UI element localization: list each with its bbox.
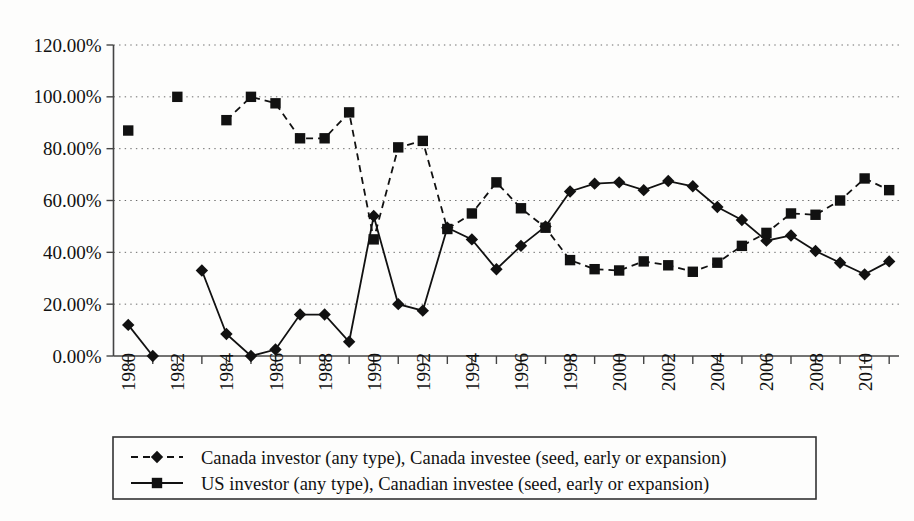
data-point-square: [344, 107, 354, 117]
y-tick-label: 80.00%: [43, 138, 102, 159]
data-point-square: [589, 264, 599, 274]
data-point-square: [761, 228, 771, 238]
data-point-diamond: [564, 185, 576, 197]
data-point-diamond: [417, 304, 429, 316]
x-tick-label: 2008: [806, 353, 827, 391]
legend-item-2[interactable]: US investor (any type), Canadian investe…: [131, 474, 709, 495]
x-tick-label: 2000: [609, 353, 630, 391]
data-point-diamond: [834, 257, 846, 269]
data-point-square: [540, 223, 550, 233]
legend-marker-diamond: [151, 451, 163, 463]
data-point-square: [688, 267, 698, 277]
x-tick-label: 1990: [364, 353, 385, 391]
y-tick-label: 0.00%: [52, 346, 101, 367]
data-point-square: [172, 92, 182, 102]
data-point-square: [221, 115, 231, 125]
y-tick-label: 60.00%: [43, 190, 102, 211]
x-tick-label: 2002: [658, 353, 679, 391]
data-point-diamond: [638, 184, 650, 196]
y-axis-ticks: 0.00%20.00%40.00%60.00%80.00%100.00%120.…: [33, 35, 113, 367]
data-series: [122, 92, 895, 363]
chart-container: 0.00%20.00%40.00%60.00%80.00%100.00%120.…: [0, 0, 914, 521]
data-point-square: [663, 260, 673, 270]
data-point-square: [467, 208, 477, 218]
legend-label: US investor (any type), Canadian investe…: [201, 474, 709, 495]
data-point-square: [246, 92, 256, 102]
x-tick-label: 1980: [118, 353, 139, 391]
data-point-square: [123, 125, 133, 135]
data-point-square: [639, 256, 649, 266]
data-point-square: [516, 203, 526, 213]
y-tick-label: 120.00%: [33, 35, 101, 56]
legend-label: Canada investor (any type), Canada inves…: [201, 448, 727, 469]
series-1: [122, 175, 895, 362]
x-tick-label: 1984: [216, 353, 237, 392]
data-point-square: [884, 185, 894, 195]
x-tick-label: 2006: [756, 353, 777, 391]
x-axis-ticks: 1980198219841986198819901992199419961998…: [118, 353, 889, 392]
data-point-square: [418, 136, 428, 146]
data-point-diamond: [809, 245, 821, 257]
data-point-diamond: [785, 229, 797, 241]
x-tick-label: 1994: [462, 353, 483, 392]
x-tick-label: 2010: [855, 353, 876, 391]
y-tick-label: 100.00%: [33, 86, 101, 107]
data-point-square: [835, 195, 845, 205]
data-point-square: [786, 208, 796, 218]
data-point-square: [270, 98, 280, 108]
x-tick-label: 1998: [560, 353, 581, 391]
x-tick-label: 1992: [413, 353, 434, 391]
series-line: [202, 181, 889, 356]
x-tick-label: 1988: [315, 353, 336, 391]
x-tick-label: 1982: [167, 353, 188, 391]
data-point-diamond: [858, 268, 870, 280]
data-point-diamond: [588, 177, 600, 189]
data-point-square: [491, 177, 501, 187]
data-point-square: [712, 258, 722, 268]
data-point-diamond: [196, 264, 208, 276]
data-point-square: [737, 241, 747, 251]
data-point-square: [614, 265, 624, 275]
data-point-diamond: [392, 298, 404, 310]
data-point-square: [810, 210, 820, 220]
data-point-square: [368, 234, 378, 244]
series-2: [123, 92, 894, 277]
data-point-square: [295, 133, 305, 143]
data-point-diamond: [613, 176, 625, 188]
legend-item-1[interactable]: Canada investor (any type), Canada inves…: [131, 448, 727, 469]
data-point-square: [565, 255, 575, 265]
data-point-square: [393, 142, 403, 152]
chart-legend: Canada investor (any type), Canada inves…: [113, 437, 816, 499]
series-line: [128, 325, 153, 356]
data-point-diamond: [662, 175, 674, 187]
data-point-square: [442, 224, 452, 234]
data-point-diamond: [883, 255, 895, 267]
data-point-square: [859, 173, 869, 183]
x-tick-label: 2004: [707, 353, 728, 392]
y-tick-label: 20.00%: [43, 294, 102, 315]
gridlines: [114, 45, 900, 304]
data-point-diamond: [294, 308, 306, 320]
x-tick-label: 1996: [511, 353, 532, 391]
series-line: [226, 97, 889, 272]
x-tick-label: 1986: [266, 353, 287, 391]
data-point-square: [319, 133, 329, 143]
venture-capital-line-chart: 0.00%20.00%40.00%60.00%80.00%100.00%120.…: [0, 0, 914, 521]
y-tick-label: 40.00%: [43, 242, 102, 263]
legend-marker-square: [152, 478, 162, 488]
